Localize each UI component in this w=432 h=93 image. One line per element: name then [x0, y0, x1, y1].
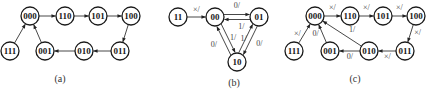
- state-diagrams: 000110101100111001010011(a)×/0/1/1/0/1/0…: [0, 0, 432, 93]
- state-node-01: 01: [250, 8, 268, 26]
- state-node-111: 111: [1, 42, 19, 60]
- state-node-11: 11: [169, 8, 187, 26]
- state-node-001: 001: [321, 42, 339, 60]
- state-node-011: 011: [396, 42, 414, 60]
- edge-001-to-000: [34, 25, 42, 43]
- state-label: 10: [233, 57, 243, 67]
- edge-111-to-000: [14, 24, 25, 43]
- state-label: 11: [174, 12, 183, 22]
- state-label: 011: [398, 46, 412, 56]
- edge-label: ×/: [384, 52, 392, 61]
- edge-label: 1/: [241, 34, 248, 43]
- state-label: 100: [409, 11, 423, 21]
- edge-label: ×/: [396, 3, 404, 12]
- edge-label: ×/: [414, 28, 422, 37]
- state-node-100: 100: [122, 7, 140, 25]
- state-label: 01: [255, 12, 265, 22]
- state-label: 100: [124, 11, 138, 21]
- state-node-010: 010: [75, 42, 93, 60]
- edge-label: 1/: [349, 25, 356, 34]
- edge-label: ×/: [329, 3, 337, 12]
- diagram-b: ×/0/1/1/0/1/0/11000110(b): [169, 1, 268, 90]
- state-node-110: 110: [56, 7, 74, 25]
- state-label: 110: [58, 11, 72, 21]
- state-label: 111: [288, 46, 301, 56]
- diagram-c: ×/×/×/×/×/0/1/0/×/0001101011001110010100…: [285, 3, 425, 85]
- state-node-001: 001: [36, 42, 54, 60]
- state-node-111: 111: [285, 42, 303, 60]
- state-label: 111: [4, 46, 17, 56]
- state-node-000: 000: [306, 7, 324, 25]
- edge-100-to-011: [123, 25, 128, 42]
- state-node-011: 011: [111, 42, 129, 60]
- diagram-caption: (c): [349, 73, 360, 85]
- edge-001-to-000: [319, 25, 327, 43]
- diagram-a: 000110101100111001010011(a): [1, 7, 140, 85]
- edge-label: 0/: [312, 29, 319, 38]
- state-node-101: 101: [374, 7, 392, 25]
- state-node-10: 10: [228, 53, 246, 71]
- state-label: 010: [362, 46, 376, 56]
- edge-100-to-011: [408, 25, 413, 42]
- state-label: 00: [211, 12, 221, 22]
- edge-10-to-00: [217, 27, 231, 55]
- diagram-caption: (a): [54, 73, 65, 85]
- state-label: 101: [376, 11, 390, 21]
- edge-label: 1/: [238, 22, 245, 31]
- state-label: 110: [343, 11, 357, 21]
- state-node-100: 100: [407, 7, 425, 25]
- state-node-110: 110: [341, 7, 359, 25]
- edge-label: 0/: [347, 52, 354, 61]
- state-label: 011: [113, 46, 127, 56]
- diagram-caption: (b): [228, 77, 240, 89]
- edge-label: 0/: [234, 1, 241, 10]
- state-label: 010: [77, 46, 91, 56]
- state-label: 001: [323, 46, 337, 56]
- state-node-00: 00: [206, 8, 224, 26]
- state-label: 101: [91, 11, 105, 21]
- state-node-010: 010: [360, 42, 378, 60]
- state-label: 000: [308, 11, 322, 21]
- edge-label: 0/: [256, 39, 263, 48]
- state-node-101: 101: [89, 7, 107, 25]
- state-node-000: 000: [21, 7, 39, 25]
- edge-label: ×/: [363, 3, 371, 12]
- edge-label: ×/: [294, 29, 302, 38]
- edge-label: 0/: [211, 40, 218, 49]
- state-label: 001: [38, 46, 52, 56]
- edge-label: 1/: [230, 33, 237, 42]
- edge-label: ×/: [193, 5, 201, 14]
- state-label: 000: [23, 11, 37, 21]
